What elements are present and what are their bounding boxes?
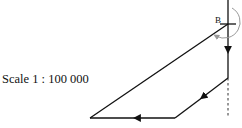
scale-label: Scale 1 : 100 000 <box>2 72 89 87</box>
leg-down-left <box>203 78 228 97</box>
leg-down-left-rest <box>175 97 203 118</box>
leg-return <box>90 24 228 118</box>
traverse-diagram <box>0 0 242 128</box>
point-b-label: B <box>215 15 221 25</box>
